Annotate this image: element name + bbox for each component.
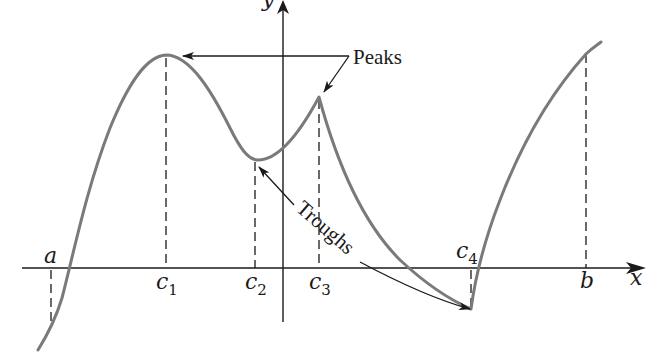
y-axis: y	[261, 0, 289, 322]
troughs-annotation: Troughs	[259, 167, 470, 309]
label-b: b	[580, 268, 594, 293]
function-curve	[38, 42, 601, 350]
label-a: a	[44, 243, 57, 268]
label-c2: c2	[245, 269, 267, 299]
extrema-diagram: x y a c1 c2 c3 c4 b Peaks Troughs	[0, 0, 660, 360]
y-axis-label: y	[261, 0, 275, 11]
x-axis-label: x	[630, 265, 643, 290]
peaks-label: Peaks	[353, 45, 402, 69]
peaks-annotation: Peaks	[183, 45, 402, 92]
x-axis: x	[22, 262, 646, 290]
label-c4: c4	[456, 238, 478, 268]
peaks-leader-c3	[324, 56, 349, 92]
label-c3: c3	[309, 269, 331, 299]
troughs-label: Troughs	[292, 196, 360, 260]
label-c1: c1	[156, 269, 178, 299]
troughs-leader-c2	[259, 167, 294, 205]
